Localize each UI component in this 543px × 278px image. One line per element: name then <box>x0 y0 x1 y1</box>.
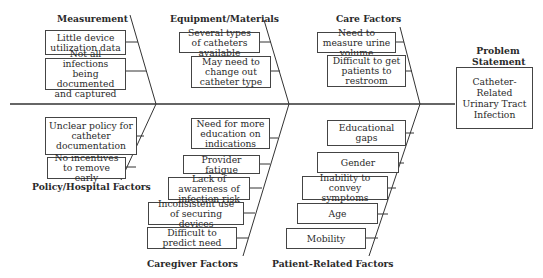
category-care-factors: Care Factors <box>336 13 401 24</box>
category-policy-hospital-factors: Policy/Hospital Factors <box>32 181 151 192</box>
cause-box: Need for more education on indications <box>191 118 270 149</box>
cause-box: No incentives to remove early <box>47 157 126 179</box>
category-caregiver-factors: Caregiver Factors <box>147 258 238 269</box>
cause-box: Several types of catheters available <box>179 32 260 53</box>
cause-box: Provider fatigue <box>183 155 260 174</box>
cause-box: May need to change out catheter type <box>191 56 271 88</box>
cause-box: Need to measure urine volume <box>317 32 396 53</box>
cause-box: Inability to convey symptoms <box>302 176 388 200</box>
category-patient-related-factors: Patient-Related Factors <box>272 258 394 269</box>
category-equipment-materials: Equipment/Materials <box>170 13 279 24</box>
cause-box: Lack of awareness of infection risk <box>168 177 250 200</box>
problem-statement-title: Problem Statement <box>472 45 524 67</box>
cause-box: Not all infections being documented and … <box>45 58 126 90</box>
cause-box: Difficult to get patients to restroom <box>327 55 406 87</box>
cause-box: Educational gaps <box>327 120 406 146</box>
problem-statement-box: Catheter-Related Urinary Tract Infection <box>456 67 533 129</box>
cause-box: Mobility <box>286 228 366 249</box>
cause-box: Unclear policy for catheter documentatio… <box>45 117 137 155</box>
cause-box: Inconsistent use of securing devices <box>148 202 244 225</box>
category-measurement: Measurement <box>57 13 128 24</box>
cause-box: Age <box>297 203 378 224</box>
cause-box: Difficult to predict need <box>147 227 237 249</box>
cause-box: Gender <box>317 152 399 173</box>
